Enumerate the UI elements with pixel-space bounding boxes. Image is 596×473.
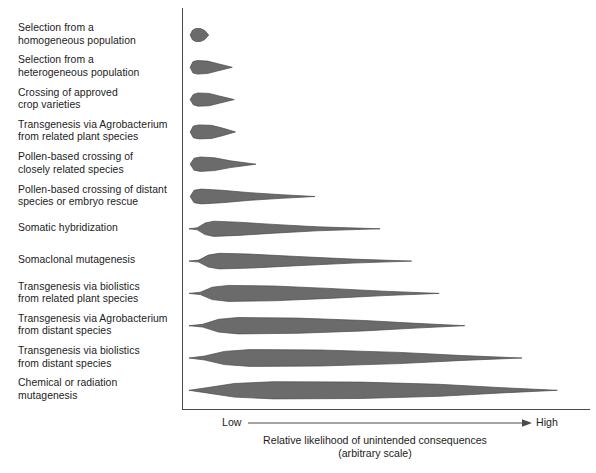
violin-shape bbox=[190, 157, 256, 171]
violin-shape bbox=[189, 221, 380, 236]
category-label: Somaclonal mutagenesis bbox=[18, 254, 180, 266]
category-label: Pollen-based crossing of distant species… bbox=[18, 184, 180, 209]
violin-shape bbox=[189, 318, 465, 334]
category-label: Somatic hybridization bbox=[18, 222, 180, 234]
violin-shape bbox=[189, 253, 412, 269]
violin-shapes-group bbox=[183, 8, 591, 410]
violin-shape bbox=[189, 382, 557, 399]
axis-arrow-icon bbox=[248, 414, 536, 432]
violin-shape bbox=[190, 93, 234, 106]
violin-shape bbox=[190, 29, 209, 42]
category-label-column: Selection from a homogeneous populationS… bbox=[0, 0, 182, 410]
violin-shape bbox=[189, 285, 439, 301]
violin-shape bbox=[190, 125, 235, 139]
axis-direction-row: Low High bbox=[182, 414, 596, 432]
axis-caption-block: Low High Relative likelihood of unintend… bbox=[182, 414, 596, 470]
violin-chart-figure: Selection from a homogeneous populationS… bbox=[0, 0, 596, 473]
violin-shape bbox=[190, 61, 232, 75]
category-label: Transgenesis via Agrobacterium from dist… bbox=[18, 313, 180, 338]
category-label: Crossing of approved crop varieties bbox=[18, 87, 180, 112]
axis-high-label: High bbox=[536, 416, 558, 429]
category-label: Transgenesis via Agrobacterium from rela… bbox=[18, 119, 180, 144]
category-label: Selection from a homogeneous population bbox=[18, 22, 180, 47]
violin-shape bbox=[190, 189, 315, 204]
category-label: Transgenesis via biolistics from distant… bbox=[18, 345, 180, 370]
axis-caption-line-1: Relative likelihood of unintended conseq… bbox=[168, 434, 582, 447]
category-label: Selection from a heterogeneous populatio… bbox=[18, 54, 180, 79]
violin-shape bbox=[189, 350, 522, 367]
plot-area bbox=[182, 8, 590, 410]
category-label: Pollen-based crossing of closely related… bbox=[18, 151, 180, 176]
axis-low-label: Low bbox=[222, 416, 241, 429]
axis-caption-line-2: (arbitrary scale) bbox=[168, 447, 582, 460]
category-label: Transgenesis via biolistics from related… bbox=[18, 281, 180, 306]
category-label: Chemical or radiation mutagenesis bbox=[18, 377, 180, 402]
